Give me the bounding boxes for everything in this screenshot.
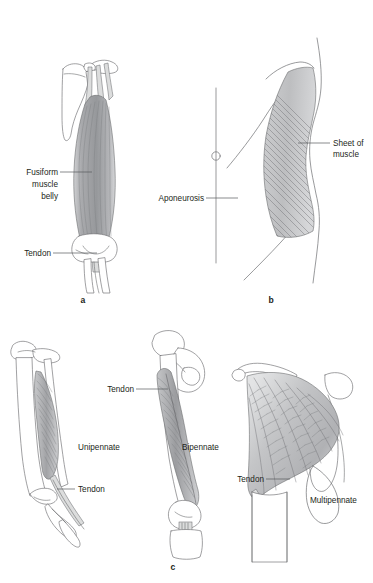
- tendon-bipennate-label: Tendon: [107, 385, 134, 394]
- bipennate-diagram: Tendon Bipennate: [107, 331, 219, 560]
- tibial-plateau: [11, 341, 37, 359]
- multipennate-label: Multipennate: [310, 496, 357, 505]
- humerus-shaft-right: [252, 492, 287, 562]
- tibial-tuberosity: [170, 530, 202, 560]
- bipennate-label: Bipennate: [182, 443, 219, 452]
- panel-a-fusiform-diagram: Fusiform muscle belly Tendon a: [24, 60, 118, 305]
- tendon-unipennate-label: Tendon: [78, 485, 105, 494]
- sheet-of-muscle-shape: [228, 58, 340, 338]
- muscle-architecture-figure: Fusiform muscle belly Tendon a: [0, 0, 373, 583]
- fusiform-label-line1: Fusiform: [26, 168, 58, 177]
- acromion-right: [325, 373, 353, 399]
- fusiform-label-line2: muscle: [32, 180, 58, 189]
- panel-letter-b: b: [268, 295, 273, 305]
- panel-letter-c: c: [171, 562, 176, 572]
- sheet-label-line1: Sheet of: [333, 139, 364, 148]
- tendon-multipennate-label: Tendon: [237, 475, 264, 484]
- panel-b-aponeurosis-diagram: Sheet of muscle Aponeurosis b: [158, 38, 364, 338]
- talus-bone: [30, 488, 57, 504]
- tendon-a-label: Tendon: [24, 249, 51, 258]
- unipennate-label: Unipennate: [78, 443, 120, 452]
- unipennate-diagram: Unipennate Tendon: [11, 341, 121, 547]
- aponeurosis-label: Aponeurosis: [158, 194, 204, 203]
- panel-letter-a: a: [81, 295, 86, 305]
- ulna-bone: [98, 258, 110, 293]
- multipennate-diagram: Tendon Multipennate: [232, 363, 357, 562]
- sheet-label-line2: muscle: [333, 150, 359, 159]
- sternal-end: [232, 369, 245, 381]
- elbow-joint-outline: [72, 234, 117, 262]
- fusiform-label-line3: belly: [41, 192, 59, 201]
